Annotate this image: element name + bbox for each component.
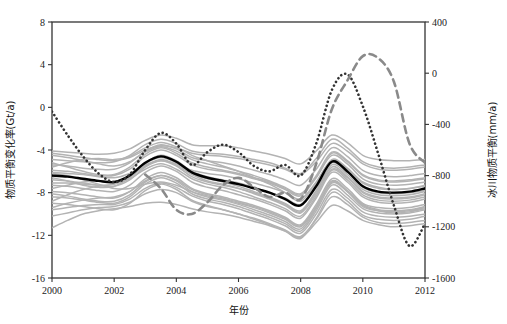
y2-tick-label: -800 [432,170,450,181]
y-tick-label: -12 [32,230,45,241]
y-axis-left-title: 物质平衡变化率(Gt/a) [4,100,16,199]
y-tick-label: 4 [40,59,45,70]
x-tick-label: 2008 [291,285,311,296]
y2-tick-label: -1600 [432,273,455,284]
x-tick-label: 2010 [353,285,373,296]
x-tick-label: 2002 [104,285,124,296]
figure-container: 2000200220042006200820102012 840-4-8-12-… [0,0,507,324]
y-tick-label: -8 [37,187,45,198]
y2-tick-label: 0 [432,68,437,79]
y-axis-right-title: 冰川物质平衡(mm/a) [486,102,498,199]
mass-balance-line-chart: 2000200220042006200820102012 840-4-8-12-… [0,0,507,324]
y-tick-label: 0 [40,102,45,113]
y-tick-label: -16 [32,273,45,284]
y2-tick-label: 400 [432,17,447,28]
y-tick-label: 8 [40,17,45,28]
x-axis-title: 年份 [229,304,249,316]
x-tick-label: 2012 [415,285,435,296]
y2-tick-label: -400 [432,119,450,130]
x-tick-label: 2004 [166,285,186,296]
x-tick-label: 2006 [229,285,249,296]
y-tick-label: -4 [37,145,45,156]
y2-tick-label: -1200 [432,221,455,232]
x-tick-label: 2000 [42,285,62,296]
